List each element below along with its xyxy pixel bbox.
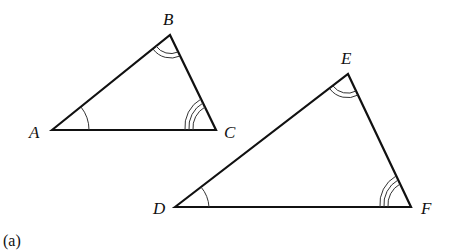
angle-mark-e [333, 86, 356, 93]
figure-caption: (a) [3, 232, 21, 250]
vertex-label-d: D [152, 199, 166, 218]
angle-mark-a [81, 107, 89, 130]
vertex-label-e: E [340, 49, 352, 68]
vertex-label-f: F [420, 199, 432, 218]
vertex-label-b: B [163, 10, 174, 29]
triangle-def: E D F [152, 49, 432, 218]
angle-mark-d [201, 187, 209, 207]
similar-triangles-diagram: B A C E D F (a) [0, 0, 456, 252]
vertex-label-c: C [224, 123, 236, 142]
triangle-abc: B A C [28, 10, 236, 142]
vertex-label-a: A [28, 123, 40, 142]
